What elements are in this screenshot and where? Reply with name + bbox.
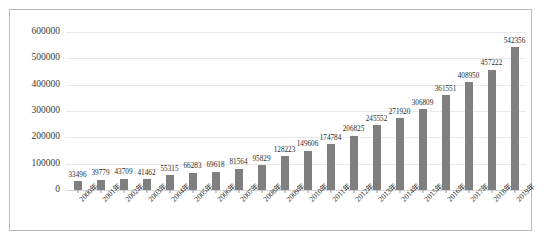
bar[interactable] (212, 172, 220, 190)
bar[interactable] (465, 82, 473, 190)
bar-value-label: 271920 (389, 109, 411, 116)
bar[interactable] (189, 173, 197, 190)
x-axis-tickmark (307, 190, 308, 193)
bar-slot[interactable]: 1747842011年 (319, 32, 342, 190)
bar-slot[interactable]: 1282232009年 (273, 32, 296, 190)
x-axis-tickmark (169, 190, 170, 193)
bar-value-label: 41462 (138, 170, 156, 177)
x-axis-tickmark (376, 190, 377, 193)
bar-slot[interactable]: 2455522013年 (365, 32, 388, 190)
bar[interactable] (327, 144, 335, 190)
bar-slot[interactable]: 3068092015年 (411, 32, 434, 190)
bar[interactable] (281, 156, 289, 190)
x-axis-tickmark (146, 190, 147, 193)
bar-value-label: 55315 (161, 166, 179, 173)
bar-value-label: 81564 (230, 159, 248, 166)
y-axis-tick-label: 300000 (32, 106, 61, 116)
bar[interactable] (488, 70, 496, 190)
y-axis-tick-label: 400000 (32, 80, 61, 90)
x-axis-tickmark (192, 190, 193, 193)
bar-slot[interactable]: 553152004年 (158, 32, 181, 190)
y-axis-tick-label: 500000 (32, 54, 61, 64)
bar-value-label: 361551 (435, 86, 457, 93)
bar-value-label: 206825 (343, 126, 365, 133)
x-axis-tickmark (261, 190, 262, 193)
bar-slot[interactable]: 4572222018年 (480, 32, 503, 190)
bar[interactable] (120, 179, 128, 191)
bar[interactable] (396, 118, 404, 190)
x-axis-tickmark (445, 190, 446, 193)
plot-area: 0100000200000300000400000500000600000 33… (66, 32, 526, 190)
bar-value-label: 149606 (297, 141, 319, 148)
bar[interactable] (350, 136, 358, 190)
bar-value-label: 306809 (412, 100, 434, 107)
bar[interactable] (511, 47, 519, 190)
x-axis-tickmark (330, 190, 331, 193)
bar-slot[interactable]: 5423562019年 (503, 32, 526, 190)
bar-slot[interactable]: 4089502017年 (457, 32, 480, 190)
x-axis-tickmark (468, 190, 469, 193)
bar-value-label: 69618 (207, 162, 225, 169)
bar-value-label: 245552 (366, 116, 388, 123)
y-axis-tick-label: 600000 (32, 27, 61, 37)
bar-value-label: 457222 (481, 60, 503, 67)
bar-slot[interactable]: 2719202014年 (388, 32, 411, 190)
bar-series: 334962000年397792001年437092002年414622003年… (66, 32, 526, 190)
bar-value-label: 66283 (184, 163, 202, 170)
x-axis-tickmark (491, 190, 492, 193)
x-axis-tickmark (77, 190, 78, 193)
bar-slot[interactable]: 958292008年 (250, 32, 273, 190)
x-axis-tickmark (422, 190, 423, 193)
bar-slot[interactable]: 3615512016年 (434, 32, 457, 190)
bar-value-label: 174784 (320, 135, 342, 142)
bar-value-label: 95829 (253, 156, 271, 163)
bar-slot[interactable]: 334962000年 (66, 32, 89, 190)
x-axis-tickmark (514, 190, 515, 193)
chart-frame: 0100000200000300000400000500000600000 33… (9, 9, 532, 231)
bar[interactable] (442, 95, 450, 190)
x-axis-tickmark (238, 190, 239, 193)
x-axis-tickmark (353, 190, 354, 193)
bar-slot[interactable]: 397792001年 (89, 32, 112, 190)
bar[interactable] (419, 109, 427, 190)
bar[interactable] (166, 175, 174, 190)
bar-value-label: 542356 (504, 38, 526, 45)
bar-slot[interactable]: 696182006年 (204, 32, 227, 190)
bar-slot[interactable]: 662832005年 (181, 32, 204, 190)
bar-value-label: 408950 (458, 73, 480, 80)
bar[interactable] (258, 165, 266, 190)
bar-value-label: 128223 (274, 147, 296, 154)
bar[interactable] (97, 180, 105, 190)
bar-slot[interactable]: 2068252012年 (342, 32, 365, 190)
x-axis-tickmark (399, 190, 400, 193)
x-axis-tickmark (100, 190, 101, 193)
y-axis-tick-label: 200000 (32, 133, 61, 143)
bar[interactable] (143, 179, 151, 190)
bar-slot[interactable]: 437092002年 (112, 32, 135, 190)
x-axis-tickmark (284, 190, 285, 193)
bar[interactable] (373, 125, 381, 190)
bar-slot[interactable]: 815642007年 (227, 32, 250, 190)
bar-slot[interactable]: 414622003年 (135, 32, 158, 190)
screenshot-root: 0100000200000300000400000500000600000 33… (0, 0, 550, 243)
bar-value-label: 43709 (115, 169, 133, 176)
bar[interactable] (304, 151, 312, 190)
y-axis-tick-label: 100000 (32, 159, 61, 169)
bar-value-label: 39779 (92, 170, 110, 177)
x-axis-tickmark (215, 190, 216, 193)
bar-slot[interactable]: 1496062010年 (296, 32, 319, 190)
y-axis-tick-label: 0 (55, 185, 60, 195)
x-axis-tickmark (123, 190, 124, 193)
bar[interactable] (74, 181, 82, 190)
bar[interactable] (235, 169, 243, 190)
bar-value-label: 33496 (69, 172, 87, 179)
